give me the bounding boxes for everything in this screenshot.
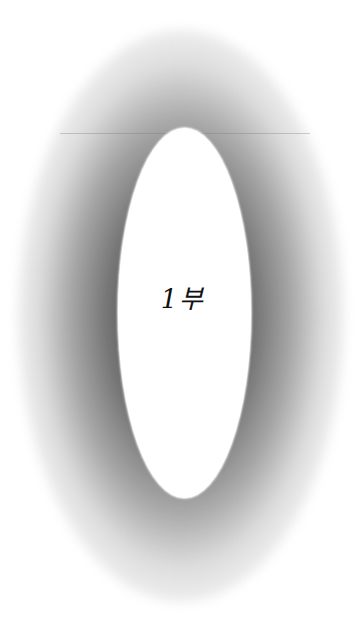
part-title: 1부 [0, 278, 356, 315]
page: 1부 [0, 0, 356, 630]
